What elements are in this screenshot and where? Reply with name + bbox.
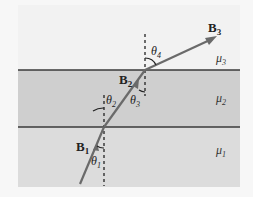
region-mu1 (18, 127, 240, 187)
refraction-diagram: B3 B2 B1 θ4 θ3 θ2 θ1 μ3 μ2 μ1 (0, 0, 253, 197)
region-mu3 (18, 5, 240, 70)
